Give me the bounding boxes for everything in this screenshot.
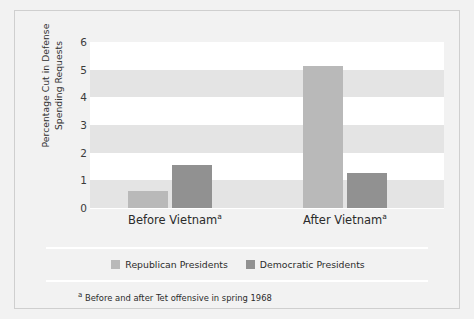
footnote-mark: a bbox=[78, 291, 82, 299]
bar-republican-before-vietnam bbox=[128, 191, 168, 208]
legend-separator-bottom bbox=[46, 280, 428, 282]
bar-republican-after-vietnam bbox=[303, 66, 343, 208]
chart-figure: Percentage Cut in Defense Spending Reque… bbox=[0, 0, 474, 319]
legend-item-democratic: Democratic Presidents bbox=[246, 259, 365, 270]
plot-area bbox=[90, 42, 444, 208]
legend-swatch-republican-icon bbox=[111, 260, 120, 269]
legend-item-republican: Republican Presidents bbox=[111, 259, 228, 270]
legend-label-democratic: Democratic Presidents bbox=[260, 259, 365, 270]
y-tick-0: 0 bbox=[61, 203, 87, 213]
category-label-before-vietnam-text: Before Vietnam bbox=[128, 213, 217, 227]
chart-footnote: a Before and after Tet offensive in spri… bbox=[78, 291, 272, 303]
grid-band-2-3 bbox=[90, 125, 444, 153]
y-tick-3: 3 bbox=[61, 120, 87, 130]
category-label-before-vietnam-mark: a bbox=[217, 212, 222, 221]
legend-label-republican: Republican Presidents bbox=[125, 259, 228, 270]
bar-democratic-after-vietnam bbox=[347, 173, 387, 208]
x-axis-line bbox=[90, 208, 444, 209]
category-label-after-vietnam-mark: a bbox=[382, 212, 387, 221]
bar-democratic-before-vietnam bbox=[172, 165, 212, 208]
category-label-after-vietnam: After Vietnama bbox=[303, 212, 387, 227]
y-axis-ticks: 6 5 4 3 2 1 0 bbox=[61, 31, 87, 221]
grid-band-4-5 bbox=[90, 70, 444, 98]
category-label-after-vietnam-text: After Vietnam bbox=[303, 213, 382, 227]
y-tick-4: 4 bbox=[61, 92, 87, 102]
y-tick-1: 1 bbox=[61, 175, 87, 185]
y-tick-5: 5 bbox=[61, 65, 87, 75]
chart-legend: Republican Presidents Democratic Preside… bbox=[15, 259, 461, 270]
legend-swatch-democratic-icon bbox=[246, 260, 255, 269]
legend-separator-top bbox=[46, 247, 428, 249]
footnote-text: Before and after Tet offensive in spring… bbox=[85, 293, 272, 303]
y-tick-6: 6 bbox=[61, 37, 87, 47]
category-label-before-vietnam: Before Vietnama bbox=[128, 212, 222, 227]
y-tick-2: 2 bbox=[61, 148, 87, 158]
chart-frame: Percentage Cut in Defense Spending Reque… bbox=[14, 10, 460, 309]
